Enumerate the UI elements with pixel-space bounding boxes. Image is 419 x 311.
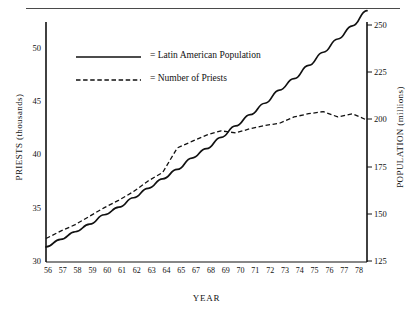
x-tick-57: 57 xyxy=(55,266,71,275)
y-axis-left-title: PRIESTS (thousands) xyxy=(14,72,24,202)
legend-swatches xyxy=(76,57,141,80)
x-tick-65: 65 xyxy=(173,266,189,275)
y-right-tick-200: 200 xyxy=(374,114,400,124)
x-tick-69: 69 xyxy=(218,266,234,275)
series-line-number-of-priests xyxy=(46,112,367,239)
legend-label-priests: Number of Priests xyxy=(158,73,227,83)
y-left-tick-40: 40 xyxy=(19,149,41,159)
x-tick-70: 70 xyxy=(233,266,249,275)
x-tick-61: 61 xyxy=(114,266,130,275)
x-tick-60: 60 xyxy=(99,266,115,275)
x-tick-56: 56 xyxy=(40,266,56,275)
series-line-latin-american-population xyxy=(46,11,367,247)
x-tick-58: 58 xyxy=(70,266,86,275)
y-axis-right-title: POPULATION (millions) xyxy=(395,72,405,202)
y-right-tick-250: 250 xyxy=(374,20,400,30)
y-left-tick-45: 45 xyxy=(19,96,41,106)
y-left-tick-50: 50 xyxy=(19,43,41,53)
legend-label-population: Latin American Population xyxy=(158,50,261,60)
y-left-tick-30: 30 xyxy=(19,256,41,266)
y-right-tick-125: 125 xyxy=(374,256,400,266)
legend-equals-sign: = xyxy=(150,50,155,60)
chart-plot-area xyxy=(0,0,419,311)
x-tick-64: 64 xyxy=(158,266,174,275)
x-tick-74: 74 xyxy=(292,266,308,275)
y-right-tick-150: 150 xyxy=(374,209,400,219)
x-tick-59: 59 xyxy=(84,266,100,275)
legend-entry-priests: = Number of Priests xyxy=(150,73,227,83)
x-tick-62: 62 xyxy=(129,266,145,275)
x-tick-78: 78 xyxy=(351,266,367,275)
x-tick-67: 67 xyxy=(188,266,204,275)
x-tick-71: 71 xyxy=(247,266,263,275)
legend-entry-population: = Latin American Population xyxy=(150,50,261,60)
legend-equals-sign: = xyxy=(150,73,155,83)
x-tick-72: 72 xyxy=(262,266,278,275)
x-tick-76: 76 xyxy=(321,266,337,275)
x-axis-title: YEAR xyxy=(46,293,367,303)
y-right-tick-225: 225 xyxy=(374,67,400,77)
x-tick-77: 77 xyxy=(336,266,352,275)
chart-figure: PRIESTS (thousands) POPULATION (millions… xyxy=(0,0,419,311)
y-right-tick-175: 175 xyxy=(374,162,400,172)
y-left-tick-35: 35 xyxy=(19,203,41,213)
x-tick-68: 68 xyxy=(203,266,219,275)
x-tick-73: 73 xyxy=(277,266,293,275)
x-tick-63: 63 xyxy=(144,266,160,275)
x-tick-75: 75 xyxy=(307,266,323,275)
